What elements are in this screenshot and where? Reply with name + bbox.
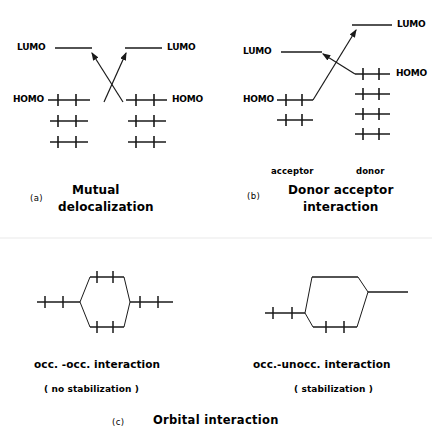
correlation-line <box>80 277 90 302</box>
panel-b-donor-lumo-label: LUMO <box>397 20 426 29</box>
panel-b-donor-role-label: donor <box>356 167 385 176</box>
panel-a-right-homo-label: HOMO <box>172 95 203 104</box>
panel-a-title-line-1: Mutual <box>72 184 120 196</box>
panel-b-donor-homo-label: HOMO <box>396 69 427 78</box>
occ-occ-caption: occ. -occ. interaction <box>34 359 160 370</box>
occ-occ-subcaption: ( no stabilization ) <box>44 385 139 394</box>
occ-unocc-subcaption: ( stabilization ) <box>294 385 373 394</box>
figure-title: Orbital interaction <box>153 415 279 427</box>
correlation-line <box>357 292 368 327</box>
panel-b-acceptor-homo-label: HOMO <box>243 95 274 104</box>
correlation-line <box>80 302 90 327</box>
panel-a-title-line-2: delocalization <box>58 201 154 213</box>
correlation-line <box>124 302 130 327</box>
panel-a-right-lumo-label: LUMO <box>167 43 196 52</box>
panel-a-level-diagram <box>48 48 167 148</box>
panel-b-acceptor-lumo-label: LUMO <box>243 47 272 56</box>
panel-a-tag: (a) <box>30 194 43 203</box>
panel-b-level-diagram <box>277 25 392 140</box>
panel-b-tag: (b) <box>247 192 260 201</box>
figure-title-tag: (c) <box>112 418 125 427</box>
panel-b-title-line-2: interaction <box>303 201 378 213</box>
correlation-line <box>305 277 312 313</box>
occ-unocc-caption: occ.-unocc. interaction <box>253 359 391 370</box>
correlation-line <box>358 277 368 292</box>
correlation-line <box>124 277 130 302</box>
panel-a-left-lumo-label: LUMO <box>17 43 46 52</box>
panel-a-left-homo-label: HOMO <box>13 95 44 104</box>
occ-unocc-interaction-diagram <box>265 277 408 333</box>
occ-occ-interaction-diagram <box>37 271 173 333</box>
panel-b-acceptor-role-label: acceptor <box>271 167 314 176</box>
correlation-line <box>305 313 313 327</box>
orbital-interaction-figure: LUMO HOMO LUMO HOMO (a) Mutual delocaliz… <box>0 0 432 443</box>
panel-b-ct-arrow-donor-homo-to-acceptor-lumo <box>313 30 356 100</box>
figure-vector-canvas <box>0 0 432 443</box>
panel-b-title-line-1: Donor acceptor <box>288 184 393 196</box>
